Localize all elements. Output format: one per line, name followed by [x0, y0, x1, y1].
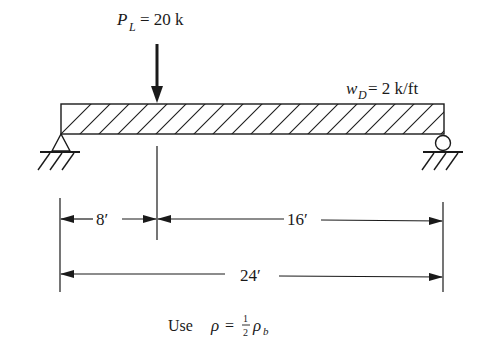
roller-support-icon: [422, 136, 463, 171]
svg-text:Use: Use: [168, 317, 193, 334]
svg-text:P: P: [116, 10, 127, 29]
svg-text:ρ: ρ: [252, 316, 261, 335]
dimension-24ft-label: 24′: [240, 266, 261, 285]
svg-text:= 2 k/ft: = 2 k/ft: [368, 79, 418, 98]
reinforcement-ratio-note: Use ρ = 1 2 ρ b: [168, 313, 269, 338]
svg-text:D: D: [357, 88, 367, 102]
distributed-load-label: w D = 2 k/ft: [346, 79, 418, 102]
svg-text:L: L: [128, 20, 136, 34]
point-load-arrow-icon: [151, 44, 163, 103]
svg-text:1: 1: [243, 313, 248, 324]
pin-support-icon: [38, 134, 80, 170]
dimension-16ft-label: 16′: [287, 210, 308, 229]
svg-text:2: 2: [243, 327, 248, 338]
svg-text:=: =: [225, 317, 234, 334]
svg-text:ρ: ρ: [210, 316, 219, 335]
svg-text:w: w: [346, 79, 358, 98]
svg-text:= 20 k: = 20 k: [140, 10, 184, 29]
dimension-8ft-label: 8′: [96, 210, 108, 229]
beam-diagram: P L = 20 k w D = 2 k/ft: [0, 0, 477, 355]
beam: [45, 100, 475, 150]
svg-text:b: b: [263, 325, 269, 337]
point-load-label: P L = 20 k: [116, 10, 184, 34]
